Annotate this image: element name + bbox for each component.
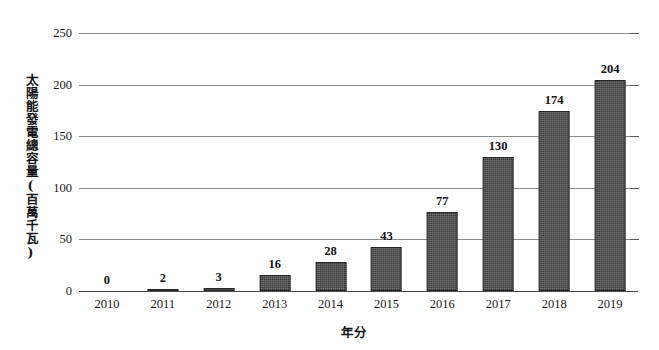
bar-value-label-2018: 174 [545, 93, 564, 108]
y-tick-label-100: 100 [53, 180, 72, 195]
x-tick-label-2013: 2013 [262, 297, 287, 312]
bar-slot-2013: 16 [247, 33, 303, 291]
x-tick-label-2016: 2016 [430, 297, 455, 312]
bars-group: 02316284377130174204 [79, 33, 638, 291]
bar-2017[interactable] [483, 157, 514, 291]
y-tick-label-150: 150 [53, 129, 72, 144]
bar-slot-2018: 174 [526, 33, 582, 291]
bar-value-label-2010: 0 [104, 273, 110, 288]
bar-2018[interactable] [539, 111, 570, 291]
x-tick-label-2014: 2014 [318, 297, 343, 312]
bar-value-label-2011: 2 [160, 271, 166, 286]
y-tick-label-0: 0 [66, 284, 72, 299]
x-tick-label-2010: 2010 [94, 297, 119, 312]
bar-slot-2015: 43 [359, 33, 415, 291]
x-tick-label-2018: 2018 [542, 297, 567, 312]
bar-2013[interactable] [259, 275, 290, 292]
bar-2015[interactable] [371, 247, 402, 291]
bar-slot-2016: 77 [414, 33, 470, 291]
solar-capacity-bar-chart: 太陽能發電總容量(百萬千瓦) 050100150200250 023162843… [0, 0, 659, 350]
bar-2019[interactable] [595, 80, 626, 291]
bar-value-label-2012: 3 [216, 270, 222, 285]
bar-slot-2012: 3 [191, 33, 247, 291]
bar-value-label-2014: 28 [324, 244, 337, 259]
bar-value-label-2017: 130 [489, 139, 508, 154]
bar-2014[interactable] [315, 262, 346, 291]
bar-2016[interactable] [427, 212, 458, 291]
bar-2011[interactable] [147, 289, 178, 291]
bar-value-label-2015: 43 [380, 229, 393, 244]
x-tick-label-2017: 2017 [486, 297, 511, 312]
bar-slot-2019: 204 [582, 33, 638, 291]
bar-value-label-2013: 16 [268, 257, 281, 272]
plot-area: 050100150200250 02316284377130174204 [79, 33, 638, 291]
bar-slot-2017: 130 [470, 33, 526, 291]
x-axis-title: 年分 [0, 322, 659, 341]
x-tick-label-2012: 2012 [206, 297, 231, 312]
bar-slot-2010: 0 [79, 33, 135, 291]
y-tick-label-250: 250 [53, 26, 72, 41]
gridline-0 [79, 291, 638, 292]
y-axis-title: 太陽能發電總容量(百萬千瓦) [13, 74, 37, 274]
x-tick-label-2019: 2019 [598, 297, 623, 312]
y-tick-label-50: 50 [60, 232, 73, 247]
bar-slot-2014: 28 [303, 33, 359, 291]
x-tick-label-2015: 2015 [374, 297, 399, 312]
bar-value-label-2019: 204 [601, 62, 620, 77]
bar-2012[interactable] [203, 288, 234, 291]
x-tick-label-2011: 2011 [151, 297, 176, 312]
bar-slot-2011: 2 [135, 33, 191, 291]
bar-value-label-2016: 77 [436, 194, 449, 209]
y-tick-label-200: 200 [53, 77, 72, 92]
